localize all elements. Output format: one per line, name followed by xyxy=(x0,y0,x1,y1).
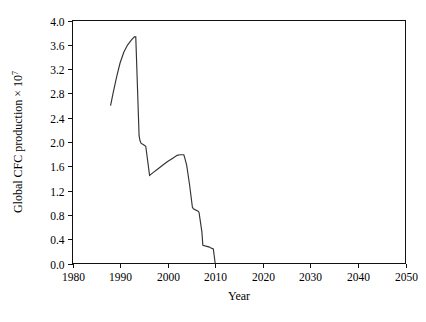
y-tick-label-4.0: 4.0 xyxy=(50,16,65,28)
cfc-production-line-chart: 19801990200020102020203020402050 0.00.40… xyxy=(0,0,426,322)
y-tick-label-1.2: 1.2 xyxy=(50,186,65,198)
y-axis-title-group: Global CFC production × 107 xyxy=(11,71,25,213)
y-tick-label-0.8: 0.8 xyxy=(50,210,65,222)
y-tick-label-3.6: 3.6 xyxy=(50,40,65,52)
y-tick-label-3.2: 3.2 xyxy=(50,64,65,76)
data-series-group xyxy=(111,37,216,264)
y-tick-label-0.0: 0.0 xyxy=(50,259,65,271)
x-tick-label-2010: 2010 xyxy=(204,271,227,283)
y-axis-ticks xyxy=(68,22,73,265)
x-axis-ticks xyxy=(74,264,407,269)
x-tick-label-2030: 2030 xyxy=(299,271,322,283)
x-tick-label-2050: 2050 xyxy=(395,271,418,283)
x-axis-tick-labels: 19801990200020102020203020402050 xyxy=(62,271,418,283)
y-tick-label-1.6: 1.6 xyxy=(50,161,65,173)
series-line-global-cfc-production xyxy=(111,37,216,264)
chart-figure: 19801990200020102020203020402050 0.00.40… xyxy=(0,0,426,322)
y-axis-tick-labels: 0.00.40.81.21.62.02.42.83.23.64.0 xyxy=(50,16,65,271)
y-tick-label-2.8: 2.8 xyxy=(50,88,65,100)
y-tick-label-2.4: 2.4 xyxy=(50,113,65,125)
x-tick-label-1990: 1990 xyxy=(109,271,132,283)
x-tick-label-2000: 2000 xyxy=(157,271,180,283)
x-tick-label-2020: 2020 xyxy=(252,271,275,283)
y-tick-label-2.0: 2.0 xyxy=(50,137,65,149)
x-tick-label-1980: 1980 xyxy=(62,271,85,283)
y-tick-label-0.4: 0.4 xyxy=(50,234,65,246)
y-axis-title: Global CFC production × 107 xyxy=(11,71,25,213)
x-tick-label-2040: 2040 xyxy=(347,271,370,283)
x-axis-title: Year xyxy=(228,289,250,303)
